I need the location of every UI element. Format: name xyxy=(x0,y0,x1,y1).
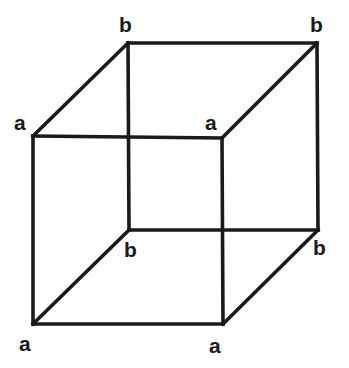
vertex-label-front-top-right: a xyxy=(205,112,217,133)
cube-edge-connect-top-right xyxy=(222,43,317,138)
vertex-label-back-top-left: b xyxy=(119,14,132,35)
vertex-label-front-top-left: a xyxy=(14,112,26,133)
cube-edge-group xyxy=(33,43,318,324)
vertex-label-back-bottom-right: b xyxy=(313,237,326,258)
cube-edge-back-left xyxy=(128,43,129,230)
vertex-label-back-bottom-left: b xyxy=(124,239,137,260)
cube-edge-back-right xyxy=(317,43,318,230)
cube-diagram: aaaabbbb xyxy=(0,0,349,368)
cube-edge-connect-bottom-right xyxy=(223,230,318,324)
cube-wireframe-svg xyxy=(0,0,349,368)
cube-edge-connect-bottom-left xyxy=(33,230,129,324)
vertex-label-front-bottom-left: a xyxy=(19,333,31,354)
vertex-label-front-bottom-right: a xyxy=(209,335,221,356)
cube-edge-connect-top-left xyxy=(33,43,128,136)
vertex-label-back-top-right: b xyxy=(310,14,323,35)
